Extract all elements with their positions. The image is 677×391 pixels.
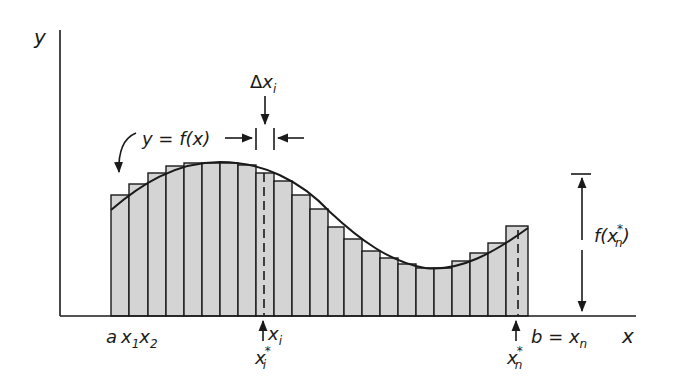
label-xn-star: x*n bbox=[506, 344, 523, 372]
rectangle-bar bbox=[238, 165, 256, 316]
rectangle-bar bbox=[328, 227, 344, 316]
height-label: f(x*n) bbox=[594, 222, 630, 250]
rectangle-bar bbox=[470, 253, 488, 316]
rectangle-bar bbox=[166, 166, 184, 316]
rectangle-bar bbox=[434, 268, 452, 316]
rectangle-bar bbox=[452, 261, 470, 316]
rectangle-bar bbox=[344, 239, 362, 316]
rectangle-bar bbox=[310, 209, 328, 316]
rectangle-bar bbox=[111, 195, 129, 316]
rectangle-bar bbox=[220, 163, 238, 316]
rectangle-bar bbox=[292, 195, 310, 316]
rectangle-bar bbox=[202, 163, 220, 316]
rectangle-bar bbox=[362, 251, 380, 316]
rectangle-bar bbox=[380, 258, 398, 316]
x-axis-label: x bbox=[621, 324, 634, 348]
delta-xi-label: Δxi bbox=[250, 71, 277, 96]
riemann-sum-diagram: y x y = f(x) Δxi f(x*n) ax1x2 xi x*i b =… bbox=[0, 0, 677, 391]
rectangle-bar bbox=[416, 268, 434, 316]
rectangle-bar bbox=[129, 184, 148, 316]
curve-label: y = f(x) bbox=[141, 128, 210, 149]
rectangle-bar bbox=[184, 163, 202, 316]
label-xi-star: x*i bbox=[254, 344, 271, 372]
label-a-x1-x2: ax1x2 bbox=[106, 326, 158, 351]
rectangle-bar bbox=[148, 173, 166, 316]
rectangle-bar bbox=[488, 243, 506, 316]
rectangle-bar bbox=[398, 264, 416, 316]
rectangles bbox=[111, 163, 528, 316]
curve-pointer-arrow bbox=[119, 133, 136, 172]
label-b-xn: b = xn bbox=[531, 326, 587, 351]
rectangle-bar bbox=[256, 173, 274, 316]
y-axis-label: y bbox=[33, 25, 47, 49]
rectangle-bar bbox=[506, 226, 528, 316]
rectangle-bar bbox=[274, 181, 292, 316]
